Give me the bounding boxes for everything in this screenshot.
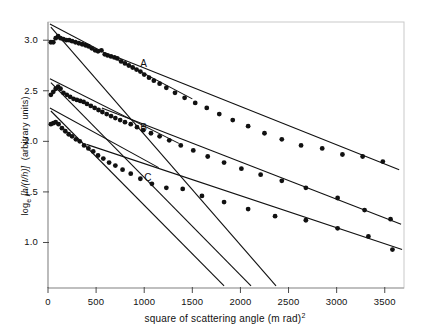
data-point-a [182, 95, 187, 100]
data-point-a [157, 81, 162, 86]
data-point-c [335, 226, 340, 231]
data-point-a [142, 72, 147, 77]
data-point-b [135, 125, 140, 130]
data-point-a [246, 124, 251, 129]
x-tick-label: 3000 [317, 296, 357, 307]
reference-line [51, 27, 276, 286]
data-point-a [204, 106, 209, 111]
data-point-b [157, 134, 162, 139]
y-axis-label-units: (arbitrary units) [20, 96, 30, 160]
data-point-b [167, 138, 172, 143]
x-tick-label: 2000 [220, 296, 260, 307]
data-point-a [173, 90, 178, 95]
x-tick-label: 2500 [269, 296, 309, 307]
x-axis-label-text: square of scattering angle (m rad) [145, 313, 302, 324]
data-point-c [200, 194, 205, 199]
plot-frame [48, 22, 404, 288]
y-axis-label: loge [h/(I/h)] (arbitrary units) [20, 66, 32, 246]
data-point-a [147, 75, 152, 80]
x-axis-label-exponent: 2 [301, 312, 305, 319]
figure-container: 1.01.52.02.53.0 050010001500200025003000… [0, 0, 423, 335]
data-point-c [70, 134, 75, 139]
curve-label-c: C [144, 172, 151, 183]
data-point-c [120, 167, 125, 172]
x-tick-label: 1500 [172, 296, 212, 307]
data-point-a [299, 143, 304, 148]
data-point-b [113, 116, 118, 121]
x-axis-label: square of scattering angle (m rad)2 [110, 312, 340, 324]
data-point-b [178, 143, 183, 148]
data-point-c [246, 207, 251, 212]
data-point-c [107, 160, 112, 165]
data-point-a [279, 137, 284, 142]
data-point-c [273, 214, 278, 219]
data-point-c [91, 149, 96, 154]
x-tick-label: 3500 [365, 296, 405, 307]
plot-box [48, 22, 404, 288]
data-point-a [138, 69, 143, 74]
data-point-c [128, 171, 133, 176]
data-point-a [360, 154, 365, 159]
scatter-plot [0, 0, 423, 335]
data-point-b [191, 148, 196, 153]
fit-line-a [115, 56, 399, 169]
data-point-b [258, 172, 263, 177]
y-axis-label-subscript: e [25, 199, 32, 203]
y-axis-label-log: log [20, 203, 30, 216]
data-point-c [138, 176, 143, 181]
data-point-c [82, 143, 87, 148]
data-point-b [100, 110, 105, 115]
reference-lines [51, 27, 276, 286]
data-point-c [96, 153, 101, 158]
data-point-c [101, 156, 106, 161]
data-point-b [303, 185, 308, 190]
data-point-a [217, 112, 222, 117]
data-point-a [340, 152, 345, 157]
data-points [48, 34, 394, 252]
data-point-a [230, 118, 235, 123]
data-point-c [366, 234, 371, 239]
data-point-b [149, 131, 154, 136]
data-point-a [320, 146, 325, 151]
data-point-c [303, 218, 308, 223]
data-point-b [104, 112, 109, 117]
data-point-a [380, 159, 385, 164]
data-point-a [193, 101, 198, 106]
data-point-b [239, 166, 244, 171]
axis-ticks [43, 40, 385, 293]
data-point-c [390, 247, 395, 252]
fit-lines [50, 24, 402, 250]
data-point-c [164, 185, 169, 190]
data-point-b [335, 196, 340, 201]
data-point-b [388, 217, 393, 222]
data-point-b [118, 118, 123, 123]
data-point-b [128, 122, 133, 127]
data-point-a [99, 48, 104, 53]
fit-line-c [86, 144, 402, 249]
data-point-a [115, 56, 120, 61]
data-point-c [86, 146, 91, 151]
x-tick-label: 500 [76, 296, 116, 307]
data-point-a [51, 40, 56, 45]
data-point-a [262, 131, 267, 136]
data-point-b [222, 160, 227, 165]
data-point-b [109, 114, 114, 119]
x-tick-label: 1000 [124, 296, 164, 307]
curve-label-b: B [140, 122, 147, 133]
data-point-b [123, 120, 128, 125]
data-point-c [77, 139, 82, 144]
data-point-b [58, 86, 63, 91]
x-tick-label: 0 [28, 296, 68, 307]
data-point-a [164, 85, 169, 90]
data-point-c [56, 122, 61, 127]
y-axis-label-bracket: [h/(I/h)] [20, 166, 30, 196]
curve-label-a: A [140, 58, 147, 69]
data-point-b [279, 178, 284, 183]
data-point-b [362, 208, 367, 213]
y-tick-label: 3.0 [12, 34, 38, 45]
data-point-a [151, 78, 156, 83]
data-point-b [205, 154, 210, 159]
data-point-c [222, 200, 227, 205]
data-point-c [180, 186, 185, 191]
data-point-c [113, 163, 118, 168]
